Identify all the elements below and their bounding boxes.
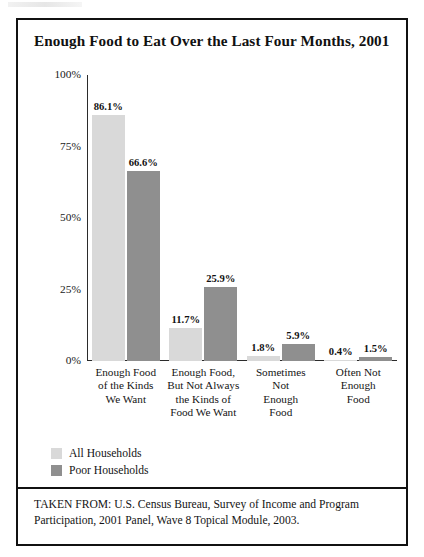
bar-4-all-households [324, 360, 357, 361]
bars-layer: 86.1%66.6%11.7%25.9%1.8%5.9%0.4%1.5% [87, 75, 397, 361]
scan-artifact [8, 2, 82, 7]
bar-2-all-households [169, 328, 202, 361]
chart-plot-area: 0%25%50%75%100% 86.1%66.6%11.7%25.9%1.8%… [18, 20, 410, 440]
category-label-3: SometimesNotEnoughFood [238, 366, 324, 420]
y-axis-tick-25: 25% [35, 283, 81, 295]
chart-legend: All HouseholdsPoor Households [51, 445, 149, 479]
legend-item-all-households: All Households [51, 445, 149, 462]
source-note: TAKEN FROM: U.S. Census Bureau, Survey o… [34, 497, 390, 530]
category-label-line: We Want [83, 393, 169, 406]
category-label-line: Enough Food, [160, 366, 246, 379]
legend-label: Poor Households [69, 464, 149, 477]
y-axis-tick-100: 100% [35, 68, 81, 80]
category-label-line: the Kinds of [160, 393, 246, 406]
y-axis-tick-75: 75% [35, 140, 81, 152]
y-axis-tick-50: 50% [35, 211, 81, 223]
bar-3-all-households [247, 356, 280, 361]
category-label-line: Food We Want [160, 406, 246, 419]
category-label-line: But Not Always [160, 379, 246, 392]
legend-swatch-icon [51, 465, 62, 476]
bar-2-poor-households [204, 287, 237, 361]
category-label-line: Enough [238, 393, 324, 406]
category-label-line: Enough [315, 379, 401, 392]
category-label-2: Enough Food,But Not Alwaysthe Kinds ofFo… [160, 366, 246, 420]
category-label-line: Food [238, 406, 324, 419]
bar-4-poor-households [359, 357, 392, 361]
category-label-line: Enough Food [83, 366, 169, 379]
bar-1-all-households [92, 115, 125, 361]
category-label-line: Not [238, 379, 324, 392]
bar-value-label: 25.9% [195, 273, 247, 284]
bar-value-label: 1.5% [350, 343, 402, 354]
category-label-line: Sometimes [238, 366, 324, 379]
bar-value-label: 5.9% [272, 330, 324, 341]
legend-swatch-icon [51, 448, 62, 459]
category-label-4: Often NotEnoughFood [315, 366, 401, 406]
figure-card: Enough Food to Eat Over the Last Four Mo… [16, 18, 408, 546]
category-label-line: Food [315, 393, 401, 406]
legend-label: All Households [69, 447, 141, 460]
bar-1-poor-households [127, 171, 160, 361]
y-axis-tick-0: 0% [35, 354, 81, 366]
category-label-1: Enough Foodof the KindsWe Want [83, 366, 169, 406]
bar-value-label: 66.6% [117, 157, 169, 168]
bar-3-poor-households [282, 344, 315, 361]
y-axis-tick-labels: 0%25%50%75%100% [30, 20, 81, 440]
category-label-line: of the Kinds [83, 379, 169, 392]
footer-divider [18, 487, 406, 489]
category-label-line: Often Not [315, 366, 401, 379]
bar-value-label: 86.1% [82, 101, 134, 112]
legend-item-poor-households: Poor Households [51, 462, 149, 479]
